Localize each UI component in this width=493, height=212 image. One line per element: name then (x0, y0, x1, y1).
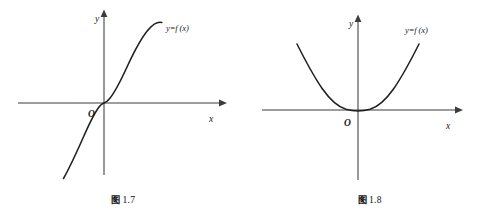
y-axis-arrow-icon (354, 15, 361, 23)
figure-panel-1-7: y x O y=f (x) 图1.7 (0, 0, 247, 212)
curve-path-1-7 (64, 22, 162, 178)
figure-caption-number-1-7: 1.7 (123, 194, 136, 205)
origin-label-1-8: O (344, 118, 351, 128)
x-axis-label-1-8: x (445, 121, 451, 131)
figure-caption-prefix-1-7: 图 (111, 194, 120, 205)
y-axis-label-1-8: y (348, 19, 354, 29)
curve-label-1-8: y=f (x) (404, 25, 428, 35)
x-axis-arrow-icon (219, 100, 227, 107)
figure-sheet: y x O y=f (x) 图1.7 y x (0, 0, 493, 212)
figure-caption-1-8: 图1.8 (247, 192, 493, 206)
y-axis-label-1-7: y (94, 14, 100, 24)
x-axis-label-1-7: x (208, 114, 214, 124)
x-axis-arrow-icon (455, 107, 463, 114)
figure-caption-prefix-1-8: 图 (358, 194, 367, 205)
plot-area-1-8: y x O y=f (x) (247, 0, 493, 190)
figure-panel-1-8: y x O y=f (x) 图1.8 (247, 0, 493, 212)
figure-caption-1-7: 图1.7 (0, 192, 247, 206)
curve-label-1-7: y=f (x) (165, 23, 189, 33)
origin-label-1-7: O (88, 109, 95, 119)
figure-caption-number-1-8: 1.8 (369, 194, 382, 205)
y-axis-arrow-icon (101, 10, 108, 18)
plot-area-1-7: y x O y=f (x) (0, 0, 247, 190)
